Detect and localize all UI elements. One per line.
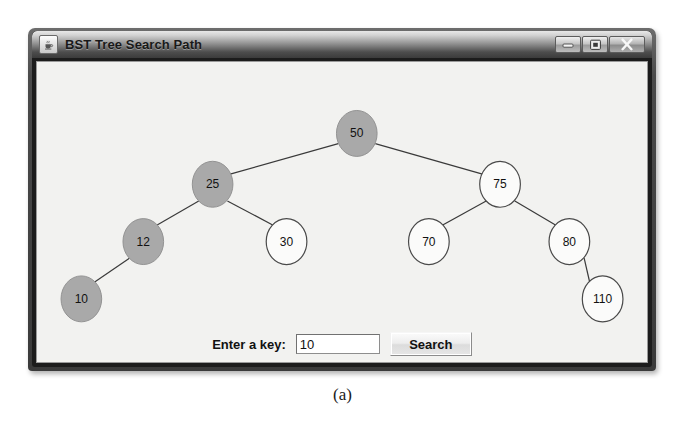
minimize-icon[interactable]	[555, 36, 581, 53]
node-label-10: 10	[75, 292, 89, 306]
node-label-25: 25	[206, 177, 220, 191]
node-label-75: 75	[493, 177, 507, 191]
search-key-input[interactable]	[296, 334, 380, 354]
maximize-icon[interactable]	[582, 36, 608, 53]
tree-node-25: 25	[192, 161, 233, 207]
search-button[interactable]: Search	[390, 332, 472, 356]
tree-node-30: 30	[266, 219, 307, 265]
tree-edge-n25-n30	[227, 201, 272, 225]
java-coffee-cup-icon	[39, 35, 58, 54]
search-control-bar: Enter a key: Search	[37, 332, 647, 356]
tree-edge-n75-n80	[515, 201, 556, 225]
close-icon[interactable]	[609, 36, 645, 53]
node-label-30: 30	[280, 235, 294, 249]
tree-node-75: 75	[480, 161, 521, 207]
window-controls	[555, 36, 647, 53]
tree-node-70: 70	[409, 219, 450, 265]
tree-edge-n80-n110	[584, 258, 590, 282]
tree-node-12: 12	[123, 219, 164, 265]
node-label-110: 110	[593, 292, 612, 306]
tree-node-110: 110	[582, 276, 623, 322]
node-label-70: 70	[422, 235, 436, 249]
tree-nodes: 5025751230708010110	[61, 110, 623, 321]
node-label-12: 12	[137, 235, 151, 249]
tree-display-panel: 5025751230708010110 Enter a key: Search	[36, 61, 648, 363]
tree-edge-n50-n25	[230, 144, 338, 175]
node-label-50: 50	[350, 126, 364, 140]
tree-edge-n50-n75	[375, 144, 482, 175]
application-window: BST Tree Search Path	[28, 28, 656, 371]
tree-edge-n25-n12	[157, 201, 199, 225]
node-label-80: 80	[563, 235, 577, 249]
title-bar[interactable]: BST Tree Search Path	[32, 31, 652, 58]
tree-node-10: 10	[61, 276, 102, 322]
figure-caption: (a)	[0, 385, 685, 405]
tree-node-50: 50	[336, 110, 377, 156]
tree-edges	[94, 144, 589, 283]
window-title: BST Tree Search Path	[65, 37, 202, 52]
tree-node-80: 80	[549, 219, 590, 265]
tree-edge-n12-n10	[94, 258, 129, 282]
window-inner-frame: BST Tree Search Path	[32, 31, 652, 367]
enter-key-label: Enter a key:	[212, 337, 286, 352]
tree-edge-n75-n70	[443, 201, 486, 225]
bst-tree-canvas: 5025751230708010110	[37, 62, 647, 362]
